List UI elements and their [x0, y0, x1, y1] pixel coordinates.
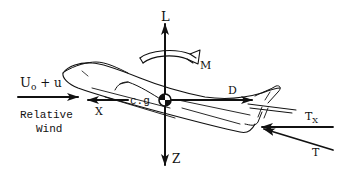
x-axis-label: X — [95, 105, 103, 118]
cg-marker — [159, 94, 171, 106]
aircraft-force-diagram: L Z M c.g X D Uo + u Relative Wind TX T — [0, 0, 351, 180]
thrust-arrow — [264, 129, 333, 150]
moment-label: M — [200, 59, 211, 72]
thrust-x-label: TX — [305, 110, 318, 125]
z-axis-label: Z — [172, 152, 180, 166]
relative-label: Relative — [20, 109, 73, 121]
drag-label: D — [228, 84, 237, 97]
thrust-label: T — [312, 146, 320, 159]
aircraft-outline — [63, 62, 296, 133]
moment-arrow — [140, 50, 200, 64]
cg-label: c.g — [130, 95, 150, 107]
velocity-label: Uo + u — [20, 75, 62, 92]
wind-label: Wind — [36, 123, 62, 135]
lift-label: L — [161, 9, 170, 24]
